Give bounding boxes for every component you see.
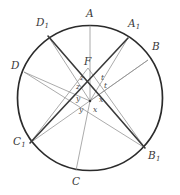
point-label-D1: D1 (36, 17, 49, 30)
chord-D-B1 (24, 72, 145, 148)
point-label-C1: C1 (13, 136, 26, 149)
thin-chord-group (24, 26, 148, 171)
angle-label-y-below-left: y (79, 106, 83, 114)
angle-label-x-below-right: x (93, 106, 97, 114)
angle-label-z-upper-left: z (80, 74, 84, 82)
point-label-C: C (72, 176, 80, 187)
geometry-figure: A A1 B B1 C C1 D D1 F z t z t y x y x (0, 0, 180, 195)
angle-label-y-left: y (76, 95, 80, 103)
point-label-A: A (86, 8, 94, 19)
diagram-canvas (0, 0, 180, 195)
angle-label-x-right: x (99, 96, 103, 104)
chord-D1-B1 (48, 36, 145, 148)
center-intersection-point (89, 100, 92, 103)
point-label-A1: A1 (128, 18, 140, 31)
point-label-B1: B1 (148, 150, 160, 163)
angle-label-t-lower-right: t (104, 82, 107, 90)
angle-label-z-lower-left: z (76, 83, 80, 91)
point-label-F: F (84, 56, 91, 67)
point-label-D: D (11, 60, 19, 71)
point-label-B: B (152, 41, 160, 52)
